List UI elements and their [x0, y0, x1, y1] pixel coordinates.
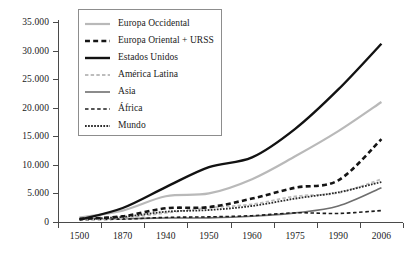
- legend-item: Asia: [85, 83, 221, 100]
- y-tick-label: 0: [44, 217, 49, 227]
- legend-label: América Latina: [118, 70, 178, 80]
- x-tick-mark: [403, 223, 404, 228]
- legend-label: África: [118, 104, 143, 114]
- legend-item: Europa Occidental: [85, 15, 221, 32]
- x-tick-mark: [231, 223, 232, 228]
- y-tick-label: 30.000: [22, 46, 49, 56]
- legend-line-swatch: [85, 36, 110, 46]
- legend-line-swatch: [85, 87, 110, 97]
- x-axis-ticks: 15001870194019501960197519902006: [58, 223, 403, 224]
- legend-line-swatch: [85, 121, 110, 131]
- y-tick-label: 5.000: [27, 188, 49, 198]
- chart-legend: Europa OccidentalEuropa Oriental + URSSE…: [78, 9, 222, 136]
- legend-line-swatch: [85, 104, 110, 114]
- x-tick-mark: [274, 223, 275, 228]
- y-tick-label: 20.000: [22, 103, 49, 113]
- legend-line-swatch: [85, 19, 110, 29]
- chart-figure: 05.00010.00015.00020.00025.00030.00035.0…: [0, 0, 408, 254]
- legend-label: Mundo: [118, 121, 146, 131]
- x-tick-label: 1950: [199, 231, 218, 241]
- x-tick-label: 1500: [70, 231, 89, 241]
- legend-label: Europa Oriental + URSS: [118, 36, 214, 46]
- x-tick-label: 1975: [285, 231, 304, 241]
- x-tick-mark: [360, 223, 361, 228]
- x-tick-label: 1940: [156, 231, 175, 241]
- legend-item: África: [85, 100, 221, 117]
- x-tick-mark: [317, 223, 318, 228]
- x-tick-label: 1960: [242, 231, 261, 241]
- x-tick-mark: [144, 223, 145, 228]
- y-tick-label: 25.000: [22, 74, 49, 84]
- x-tick-mark: [101, 223, 102, 228]
- x-tick-label: 2006: [372, 231, 391, 241]
- legend-line-swatch: [85, 53, 110, 63]
- legend-line-swatch: [85, 70, 110, 80]
- y-tick-label: 10.000: [22, 160, 49, 170]
- legend-label: Estados Unidos: [118, 53, 178, 63]
- legend-item: Europa Oriental + URSS: [85, 32, 221, 49]
- x-tick-label: 1870: [113, 231, 132, 241]
- legend-label: Europa Occidental: [118, 19, 190, 29]
- legend-label: Asia: [118, 87, 136, 97]
- y-tick-label: 35.000: [22, 17, 49, 27]
- x-tick-mark: [187, 223, 188, 228]
- legend-item: Estados Unidos: [85, 49, 221, 66]
- legend-item: América Latina: [85, 66, 221, 83]
- legend-item: Mundo: [85, 117, 221, 134]
- y-tick-label: 15.000: [22, 131, 49, 141]
- x-tick-label: 1990: [329, 231, 348, 241]
- x-tick-mark: [58, 223, 59, 228]
